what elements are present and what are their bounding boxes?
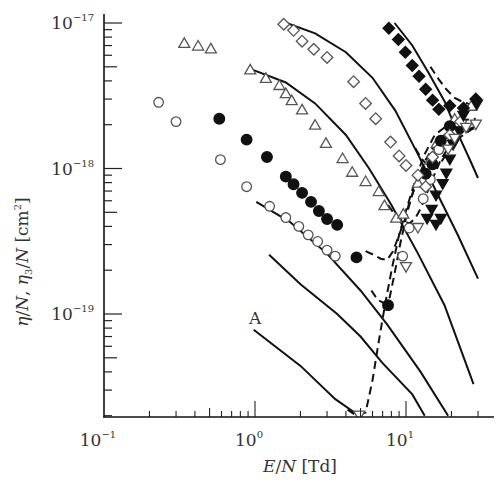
data-point-diamond-icon [385, 136, 397, 148]
data-point-circle-icon [306, 197, 317, 208]
x-ticks [149, 401, 478, 417]
data-point-circle-icon [214, 113, 225, 124]
plot-area [154, 18, 483, 420]
dashed-1 [348, 119, 476, 416]
data-point-circle-icon [418, 194, 428, 204]
data-point-circle-icon [398, 251, 408, 261]
data-point-diamond-icon [370, 113, 382, 125]
data-point-triangle-down-icon [422, 214, 433, 224]
data-point-diamond-icon [348, 76, 360, 88]
data-point-circle-icon [314, 206, 325, 217]
data-point-diamond-icon [433, 104, 445, 116]
data-point-diamond-icon [427, 94, 439, 106]
data-point-triangle-up-icon [179, 38, 190, 48]
data-point-triangle-down-icon [437, 180, 448, 190]
x-tick-label: 100 [235, 429, 263, 450]
data-point-circle-icon [154, 98, 164, 108]
data-point-diamond-icon [400, 160, 412, 172]
y-tick-label: 10−18 [51, 158, 94, 179]
data-point-triangle-up-icon [337, 153, 348, 163]
data-point-diamond-icon [393, 150, 405, 162]
data-point-circle-icon [262, 152, 273, 163]
solid-curve-2 [256, 202, 448, 416]
x-axis-label: E/N [Td] [262, 456, 337, 476]
y-ticks [104, 23, 122, 416]
data-point-diamond-icon [360, 98, 372, 110]
data-point-triangle-up-icon [310, 120, 321, 130]
data-point-triangle-up-icon [320, 138, 331, 148]
data-point-diamond-icon [406, 60, 418, 72]
y-tick-labels: 10−1710−1810−19 [51, 12, 94, 324]
data-point-circle-icon [281, 213, 291, 223]
data-point-triangle-up-icon [245, 64, 256, 74]
data-point-triangle-up-icon [347, 167, 358, 177]
data-point-triangle-up-icon [193, 41, 204, 51]
data-point-circle-icon [171, 117, 181, 127]
data-point-circle-icon [322, 214, 333, 225]
data-point-circle-icon [351, 252, 362, 263]
data-point-triangle-down-icon [426, 205, 437, 215]
data-point-triangle-up-icon [360, 176, 371, 186]
annotation-label-A: A [248, 308, 262, 328]
data-point-circle-icon [216, 155, 226, 165]
data-point-circle-icon [330, 251, 340, 261]
data-point-circle-icon [241, 134, 252, 145]
x-tick-label: 10−1 [80, 429, 116, 450]
data-point-triangle-down-icon [354, 411, 365, 421]
y-tick-label: 10−17 [51, 12, 94, 33]
data-point-circle-icon [322, 245, 332, 255]
data-point-circle-icon [265, 201, 275, 211]
data-point-circle-icon [332, 220, 343, 231]
data-point-triangle-down-icon [444, 155, 455, 165]
y-tick-label: 10−19 [51, 303, 94, 324]
solid-curve-A [254, 330, 360, 416]
data-point-diamond-icon [278, 18, 290, 30]
data-point-diamond-icon [383, 22, 395, 34]
data-point-circle-icon [294, 222, 304, 232]
y-axis-label: η/N, η3/N [cm2] [12, 197, 34, 326]
data-point-diamond-icon [400, 46, 412, 58]
series-open-circle [154, 98, 460, 261]
data-point-triangle-up-icon [205, 43, 216, 53]
data-point-circle-icon [303, 230, 313, 240]
data-point-circle-icon [297, 188, 308, 199]
chart: 10−1100101 10−1710−1810−19 E/N [Td] η/N,… [0, 0, 502, 492]
data-point-circle-icon [288, 179, 299, 190]
data-point-circle-icon [242, 182, 252, 192]
data-point-diamond-icon [420, 84, 432, 96]
data-point-circle-icon [313, 237, 323, 247]
x-tick-labels: 10−1100101 [80, 429, 414, 450]
data-point-diamond-icon [413, 71, 425, 83]
solid-curve-1 [269, 255, 425, 416]
data-point-circle-icon [383, 300, 394, 311]
data-point-diamond-icon [321, 52, 333, 64]
data-point-diamond-icon [308, 43, 320, 55]
data-point-triangle-down-icon [441, 169, 452, 179]
solid-curve-3 [252, 69, 474, 384]
data-point-triangle-up-icon [297, 104, 308, 114]
x-tick-label: 101 [386, 429, 414, 450]
data-point-diamond-icon [296, 35, 308, 47]
data-point-diamond-icon [393, 34, 405, 46]
dashed-2 [371, 125, 468, 304]
data-point-triangle-down-icon [401, 263, 412, 273]
